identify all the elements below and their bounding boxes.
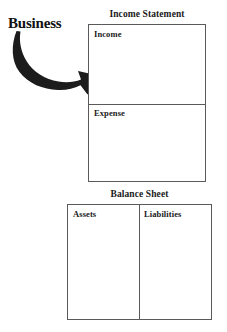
diagram-canvas: Business Income Statement Income Expense…: [0, 0, 227, 332]
income-expense-divider: [89, 104, 205, 105]
assets-liabilities-divider: [139, 205, 140, 319]
balance-sheet-box: Assets Liabilities: [67, 204, 212, 320]
expense-cell-label: Expense: [94, 108, 125, 118]
liabilities-cell-label: Liabilities: [144, 209, 181, 219]
balance-sheet-title: Balance Sheet: [67, 189, 212, 199]
income-statement-box: Income Expense: [88, 24, 206, 182]
income-cell-label: Income: [94, 29, 122, 39]
income-statement-title: Income Statement: [88, 9, 206, 19]
assets-cell-label: Assets: [73, 209, 96, 219]
